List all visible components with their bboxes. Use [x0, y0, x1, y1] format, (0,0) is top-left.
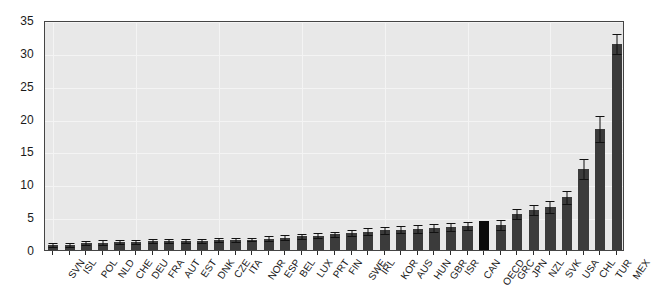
bar-group[interactable]: [114, 21, 124, 250]
error-bar-cap-top: [214, 238, 223, 239]
error-bar-cap-bottom: [579, 179, 588, 180]
x-tick-mark: [367, 251, 368, 255]
error-bar-cap-top: [513, 209, 522, 210]
error-bar-cap-bottom: [496, 230, 505, 231]
bar[interactable]: [612, 44, 622, 250]
bar-group[interactable]: [264, 21, 274, 250]
x-tick-mark: [301, 251, 302, 255]
y-axis: 05101520253035: [0, 0, 44, 301]
bar-group[interactable]: [247, 21, 257, 250]
bar-group[interactable]: [529, 21, 539, 250]
error-bar-cap-bottom: [49, 247, 58, 248]
bar-group[interactable]: [164, 21, 174, 250]
bar-group[interactable]: [380, 21, 390, 250]
bar-group[interactable]: [98, 21, 108, 250]
error-bar-cap-bottom: [380, 234, 389, 235]
x-tick-mark: [334, 251, 335, 255]
error-bar-cap-top: [529, 205, 538, 206]
bar-group[interactable]: [578, 21, 588, 250]
bar-group[interactable]: [48, 21, 58, 250]
error-bar-cap-top: [380, 227, 389, 228]
bar-group[interactable]: [313, 21, 323, 250]
y-tick-label: 20: [20, 113, 34, 127]
bar-group[interactable]: [280, 21, 290, 250]
bar-group[interactable]: [363, 21, 373, 250]
error-bar-cap-top: [198, 239, 207, 240]
x-tick-label: TUR: [613, 257, 634, 280]
error-bar-cap-bottom: [165, 243, 174, 244]
bar-group[interactable]: [148, 21, 158, 250]
error-bar-cap-top: [132, 240, 141, 241]
bar-group[interactable]: [512, 21, 522, 250]
error-bar-cap-bottom: [562, 204, 571, 205]
bar-group[interactable]: [612, 21, 622, 250]
error-bar: [450, 223, 451, 231]
error-bar-cap-bottom: [430, 232, 439, 233]
y-tick-label: 5: [27, 211, 34, 225]
error-bar-cap-top: [430, 224, 439, 225]
error-bar-cap-top: [562, 191, 571, 192]
error-bar-cap-top: [579, 159, 588, 160]
bar-group[interactable]: [214, 21, 224, 250]
error-bar-cap-bottom: [148, 243, 157, 244]
error-bar-cap-bottom: [132, 244, 141, 245]
bar[interactable]: [595, 129, 605, 250]
x-tick-mark: [235, 251, 236, 255]
x-tick-mark: [400, 251, 401, 255]
error-bar-cap-bottom: [65, 247, 74, 248]
bar-group[interactable]: [496, 21, 506, 250]
error-bar-cap-top: [496, 220, 505, 221]
x-tick-mark: [152, 251, 153, 255]
error-bar-cap-top: [49, 243, 58, 244]
bar-group[interactable]: [330, 21, 340, 250]
bar-group[interactable]: [197, 21, 207, 250]
x-tick-label: EST: [198, 257, 218, 279]
bar-group[interactable]: [462, 21, 472, 250]
bar-group[interactable]: [131, 21, 141, 250]
x-tick-mark: [384, 251, 385, 255]
bar[interactable]: [562, 197, 572, 250]
error-bar-cap-bottom: [98, 245, 107, 246]
x-tick-label: AUT: [182, 257, 203, 280]
x-tick-mark: [500, 251, 501, 255]
error-bar-cap-bottom: [446, 231, 455, 232]
error-bar-cap-bottom: [612, 54, 621, 55]
x-tick-mark: [119, 251, 120, 255]
error-bar-cap-top: [148, 239, 157, 240]
error-bar: [500, 220, 501, 231]
x-tick-label: LUX: [314, 257, 334, 280]
bar-group[interactable]: [346, 21, 356, 250]
bar[interactable]: [479, 221, 489, 250]
bar-group[interactable]: [446, 21, 456, 250]
x-tick-label: CAN: [481, 257, 502, 281]
error-bar-cap-top: [546, 201, 555, 202]
bar-group[interactable]: [562, 21, 572, 250]
x-tick-label: USA: [580, 257, 601, 280]
bar-group[interactable]: [81, 21, 91, 250]
x-tick-mark: [433, 251, 434, 255]
error-bar: [467, 222, 468, 230]
x-tick-mark: [69, 251, 70, 255]
bar-group[interactable]: [595, 21, 605, 250]
bar-group[interactable]: [545, 21, 555, 250]
x-tick-label: NZL: [546, 257, 566, 279]
x-tick-mark: [549, 251, 550, 255]
error-bar-cap-bottom: [397, 233, 406, 234]
x-tick-mark: [317, 251, 318, 255]
error-bar-cap-top: [397, 226, 406, 227]
bar-group[interactable]: [429, 21, 439, 250]
error-bar: [550, 201, 551, 213]
bar-group[interactable]: [65, 21, 75, 250]
bar-group[interactable]: [181, 21, 191, 250]
bar-group[interactable]: [297, 21, 307, 250]
bar-group[interactable]: [396, 21, 406, 250]
bar-group[interactable]: [230, 21, 240, 250]
x-tick-mark: [599, 251, 600, 255]
bar[interactable]: [578, 169, 588, 250]
bar-group[interactable]: [413, 21, 423, 250]
error-bar-cap-top: [281, 235, 290, 236]
bar-group[interactable]: [479, 21, 489, 250]
x-tick-label: BEL: [297, 257, 317, 279]
x-tick-mark: [284, 251, 285, 255]
error-bar-cap-top: [98, 240, 107, 241]
